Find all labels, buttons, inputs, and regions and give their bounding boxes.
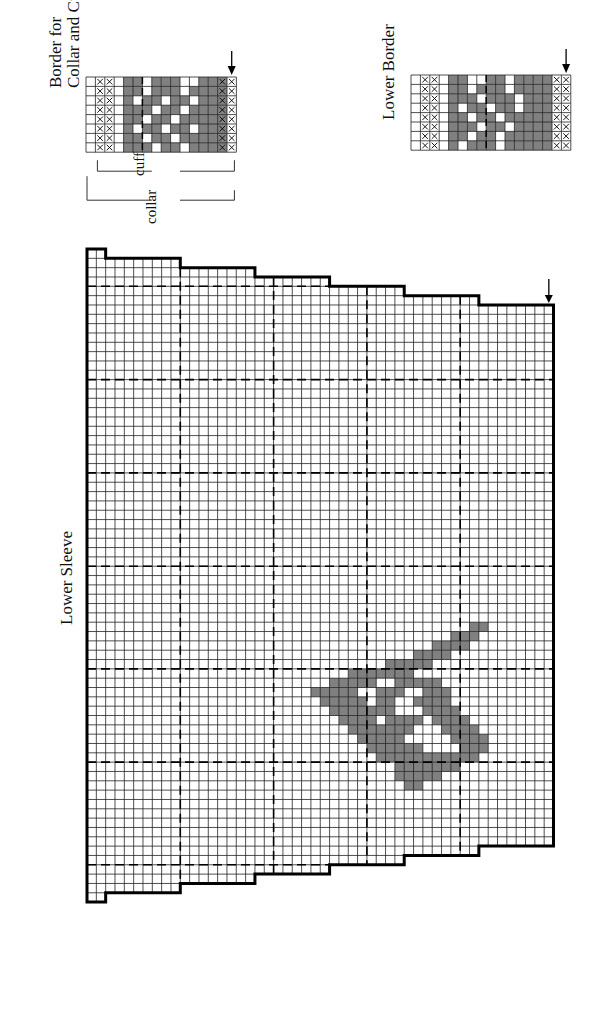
cuff-bracket [97, 160, 234, 171]
lower-border-chart-cell [496, 84, 505, 93]
x-stitch-icon [229, 107, 235, 113]
border-chart-cell [171, 77, 180, 86]
x-stitch-icon [554, 105, 560, 111]
lower-border-chart-cell [533, 141, 542, 150]
motif-cell [423, 688, 451, 697]
border-chart-cell [199, 96, 208, 105]
x-stitch-icon [422, 133, 428, 139]
lower-border-chart-cell [449, 131, 458, 140]
border-chart-cell [133, 133, 142, 142]
border-chart-cell [152, 115, 161, 124]
x-stitch-icon [107, 107, 113, 113]
border-chart-cell [171, 124, 180, 133]
motif-cell [330, 706, 377, 715]
border-chart-cell [199, 105, 208, 114]
x-stitch-icon [107, 98, 113, 104]
border-chart-cell [133, 105, 142, 114]
lower-border-chart-cell [496, 94, 505, 103]
border-chart-cell [124, 105, 133, 114]
lower-border-chart-cell [449, 103, 458, 112]
border-chart-cell [199, 143, 208, 152]
border-chart-cell [161, 133, 170, 142]
x-stitch-icon [432, 133, 438, 139]
border-chart-cell [124, 143, 133, 152]
border-chart-cell [133, 115, 142, 124]
lower-border-chart-cell [467, 103, 476, 112]
border-chart-cell [152, 133, 161, 142]
border-chart-cell [124, 133, 133, 142]
lower-border-chart-cell [543, 131, 552, 140]
x-stitch-icon [432, 124, 438, 130]
x-stitch-icon [554, 86, 560, 92]
lower-border-chart-cell [543, 113, 552, 122]
lower-border-chart-cell [449, 113, 458, 122]
x-stitch-icon [554, 124, 560, 130]
border-chart-cell [142, 124, 151, 133]
border-chart-cell [152, 96, 161, 105]
lower-border-chart-cell [533, 84, 542, 93]
border-chart-cell [152, 77, 161, 86]
lower-border-chart-cell [458, 113, 467, 122]
x-stitch-icon [563, 115, 569, 121]
border-chart-cell [208, 96, 217, 105]
x-stitch-icon [554, 96, 560, 102]
border-chart-cell [180, 133, 189, 142]
x-stitch-icon [422, 96, 428, 102]
lower-border-chart-cell [449, 141, 458, 150]
lower-border-chart-cell [505, 131, 514, 140]
lower-border-chart-cell [449, 84, 458, 93]
lower-border-chart-cell [524, 103, 533, 112]
border-chart-cell [189, 143, 198, 152]
x-stitch-icon [229, 98, 235, 104]
lower-border-chart-cell [524, 141, 533, 150]
border-chart-cell [180, 115, 189, 124]
x-stitch-icon [97, 88, 103, 94]
lower-border-chart-cell [505, 94, 514, 103]
border-chart-cell [161, 115, 170, 124]
start-arrow-icon [562, 64, 570, 73]
border-chart-cell [208, 133, 217, 142]
start-arrow-icon [228, 66, 236, 75]
lower-border-chart-cell [458, 122, 467, 131]
lower-border-chart-cell [543, 141, 552, 150]
x-stitch-icon [563, 143, 569, 149]
x-stitch-icon [97, 135, 103, 141]
border-chart-cell [199, 133, 208, 142]
x-stitch-icon [422, 77, 428, 83]
lower-border-chart-cell [449, 75, 458, 84]
lower-border-chart-cell [486, 113, 495, 122]
border-chart-cell [208, 115, 217, 124]
lower-border-chart-cell [514, 122, 523, 131]
x-stitch-icon [563, 133, 569, 139]
border-chart-cell [189, 86, 198, 95]
x-stitch-icon [97, 79, 103, 85]
lower-border-chart-cell [467, 122, 476, 131]
x-stitch-icon [107, 145, 113, 151]
lower-border-chart-cell [533, 131, 542, 140]
border-chart-cell [199, 86, 208, 95]
motif-cell [311, 688, 358, 697]
lower-border-chart-cell [533, 113, 542, 122]
lower-border-chart-cell [524, 84, 533, 93]
lower-border-chart-cell [467, 94, 476, 103]
lower-border-chart-cell [533, 103, 542, 112]
x-stitch-icon [97, 117, 103, 123]
motif-cell [451, 632, 479, 641]
lower-border-chart-cell [477, 84, 486, 93]
x-stitch-icon [229, 135, 235, 141]
lower-border-chart-cell [524, 122, 533, 131]
x-stitch-icon [432, 77, 438, 83]
lower-border-chart-cell [477, 131, 486, 140]
x-stitch-icon [107, 88, 113, 94]
lower-border-chart-cell [524, 113, 533, 122]
lower-border-chart-cell [477, 113, 486, 122]
x-stitch-icon [563, 77, 569, 83]
x-stitch-icon [107, 135, 113, 141]
lower-border-chart-cell [533, 75, 542, 84]
motif-cell [348, 725, 395, 734]
border-chart-cell [208, 143, 217, 152]
x-stitch-icon [97, 107, 103, 113]
x-stitch-icon [229, 145, 235, 151]
x-stitch-icon [229, 126, 235, 132]
x-stitch-icon [422, 124, 428, 130]
